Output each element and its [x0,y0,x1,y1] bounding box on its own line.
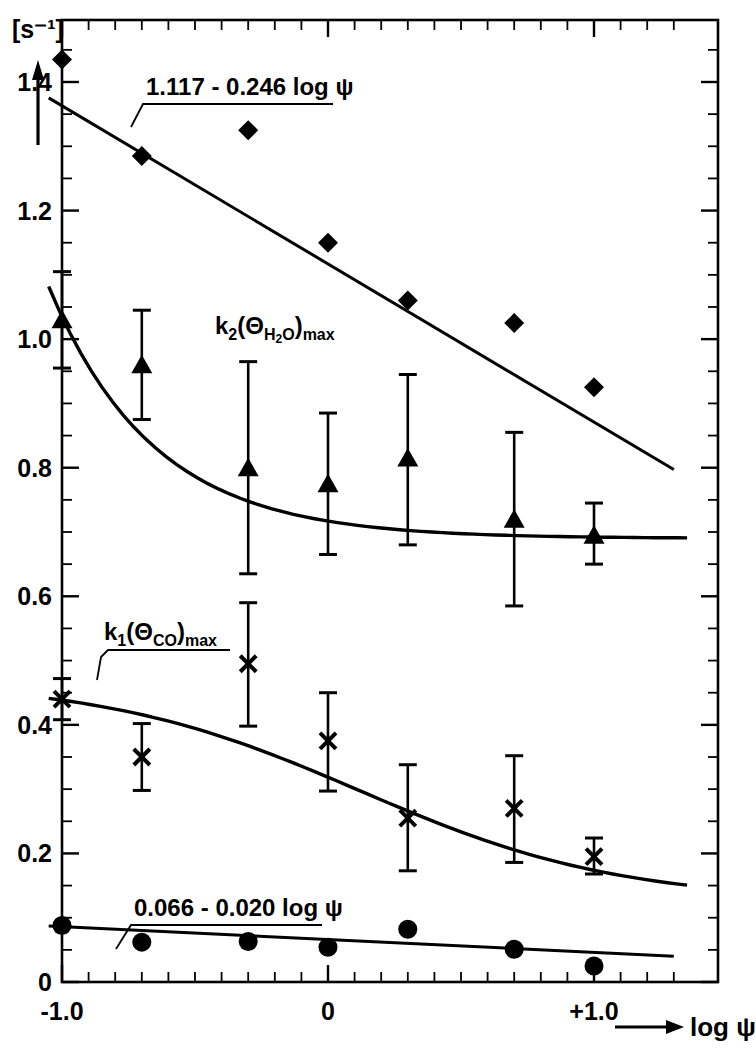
data-point-circle [132,933,151,952]
fit-top-leader [131,104,333,127]
data-point-triangle [584,525,605,544]
series-label-k2: k2(ΘH2O)max [215,312,335,346]
x-axis-title: log ψ [690,1012,756,1042]
x-axis-arrow [666,1020,684,1034]
fit-top-label: 1.117 - 0.246 log ψ [146,73,354,100]
data-point-diamond [238,120,258,140]
data-point-triangle [131,355,152,374]
y-tick-label: 0.6 [17,582,52,610]
data-point-diamond [318,233,338,253]
data-point-circle [319,938,338,957]
series-k1-leader [97,650,230,680]
data-point-circle [239,932,258,951]
y-tick-label: 0 [38,968,52,996]
data-point-circle [505,940,524,959]
series-k1-co-max [49,603,687,885]
fit-curve [49,286,687,537]
data-point-triangle [397,448,418,467]
series-label-k1: k1(ΘCO)max [104,618,217,649]
data-point-diamond [584,377,604,397]
fit-bottom-label: 0.066 - 0.020 log ψ [134,894,343,921]
y-tick-label: 0.4 [17,711,52,739]
data-point-triangle [238,458,259,477]
data-point-circle [53,916,72,935]
data-point-triangle [52,310,73,329]
data-point-circle [585,956,604,975]
data-point-diamond [52,50,72,70]
y-tick-label: 0.8 [17,454,52,482]
data-point-diamond [504,313,524,333]
chart-svg: -1.00+1.000.20.40.60.81.01.21.4[s⁻¹]log … [0,0,756,1053]
y-unit-label: [s⁻¹] [12,15,64,43]
data-point-triangle [504,509,525,528]
x-tick-label: +1.0 [569,997,618,1025]
data-point-triangle [318,474,339,493]
y-tick-label: 0.2 [17,839,52,867]
figure-root: -1.00+1.000.20.40.60.81.01.21.4[s⁻¹]log … [0,0,756,1053]
data-point-circle [398,920,417,939]
y-tick-label: 1.0 [17,325,52,353]
series-k2-h2o-max [49,272,687,606]
x-tick-label: -1.0 [40,997,83,1025]
y-tick-label: 1.2 [17,197,52,225]
x-tick-label: 0 [321,997,335,1025]
